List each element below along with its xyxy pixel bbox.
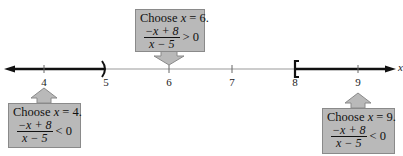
tick-label-5: 5 [103,76,109,88]
test-box-x6: Choose x = 6. −x + 8x − 5 > 0 [135,9,205,52]
tick-label-8: 8 [292,76,298,88]
test-box-title: Choose x = 9. [323,109,394,124]
test-box-title: Choose x = 6. [136,10,204,25]
test-value: = 4. [59,105,82,119]
test-value: = 6. [186,11,209,25]
choose-text: Choose [13,105,54,119]
arrow-up-icon [31,88,57,103]
choose-text: Choose [140,11,181,25]
tick-label-7: 7 [229,76,235,88]
tick-label-6: 6 [166,76,172,88]
relation: < 0 [56,125,72,138]
denominator: x − 5 [335,137,362,149]
arrow-left-icon [4,66,15,73]
denominator: x − 5 [148,38,175,50]
tick-label-4: 4 [41,76,47,88]
arrow-down-icon [154,50,184,65]
inequality: −x + 8x − 5 < 0 [9,119,80,144]
tick-label-9: 9 [355,76,361,88]
test-box-x9: Choose x = 9. −x + 8x − 5 < 0 [322,108,395,154]
relation: > 0 [183,31,199,44]
relation: < 0 [370,130,386,143]
fraction: −x + 8x − 5 [17,119,53,144]
choose-text: Choose [327,110,368,124]
inequality: −x + 8x − 5 < 0 [323,124,394,149]
test-box-title: Choose x = 4. [9,104,80,119]
axis-variable-label: x [398,61,403,73]
test-box-x4: Choose x = 4. −x + 8x − 5 < 0 [8,103,81,148]
test-value: = 9. [373,110,396,124]
arrow-right-icon [385,66,396,73]
inequality: −x + 8x − 5 > 0 [136,25,204,50]
fraction: −x + 8x − 5 [331,124,367,149]
arrow-up-icon [345,93,371,108]
denominator: x − 5 [21,132,48,144]
fraction: −x + 8x − 5 [144,25,180,50]
